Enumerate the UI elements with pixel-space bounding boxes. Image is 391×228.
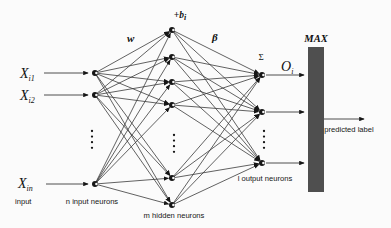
output-layer-caption: l output neurons [238,174,293,183]
max-bar [308,47,324,192]
input-label-xi2: Xi2 [19,88,35,105]
input-label-xin: Xin [17,176,33,193]
page: { "diagram": { "inputs": [ {"symbol": "X… [0,0,391,228]
output-oi-label: Oi [281,59,293,76]
input-caption: input [15,197,32,206]
input-label-xi1: Xi1 [19,66,35,83]
sigma-label: Σ [258,52,263,62]
bias-label: +bi [174,10,187,22]
hidden-layer-caption: m hidden neurons [144,211,205,220]
beta-label: β [211,31,218,43]
neural-network-diagram: Xi1 Xi2 Xin w +bi β Σ Oi MAX input n inp… [0,0,391,228]
weight-label: w [127,32,135,44]
predicted-label-caption: predicted label [324,125,374,134]
ellipsis-dots [91,130,265,153]
max-label: MAX [303,33,328,44]
input-layer-caption: n input neurons [66,197,119,206]
diagram-canvas: Xi1 Xi2 Xin w +bi β Σ Oi MAX input n inp… [0,0,391,228]
